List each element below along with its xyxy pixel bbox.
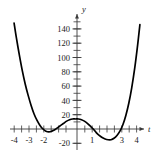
- ytick-label-120: 120: [57, 38, 70, 48]
- ytick-label-100: 100: [57, 53, 70, 63]
- xtick-label-1: 1: [90, 135, 94, 145]
- y-axis-arrow: [75, 14, 79, 19]
- xtick-label-4: 4: [134, 135, 139, 145]
- xtick-label-minus3: -3: [25, 135, 32, 145]
- xtick-label-3: 3: [120, 135, 124, 145]
- x-axis-arrow: [140, 127, 145, 131]
- ytick-label-40: 40: [62, 96, 71, 106]
- axes-group: [10, 14, 144, 150]
- polynomial-plot: 140 120 100 80 60 40 20 -20 -4 -3 -2 1 3…: [0, 0, 160, 159]
- xtick-label-minus2: -2: [40, 135, 47, 145]
- x-axis-label: t: [148, 124, 151, 134]
- y-axis-label: y: [81, 4, 86, 14]
- ytick-label-140: 140: [57, 24, 70, 34]
- ytick-label-60: 60: [62, 81, 71, 91]
- ytick-label-20: 20: [62, 110, 71, 120]
- ytick-label-minus20: -20: [59, 138, 70, 148]
- xtick-label-minus4: -4: [11, 135, 19, 145]
- ytick-label-80: 80: [62, 67, 71, 77]
- chart-figure: 140 120 100 80 60 40 20 -20 -4 -3 -2 1 3…: [0, 0, 160, 159]
